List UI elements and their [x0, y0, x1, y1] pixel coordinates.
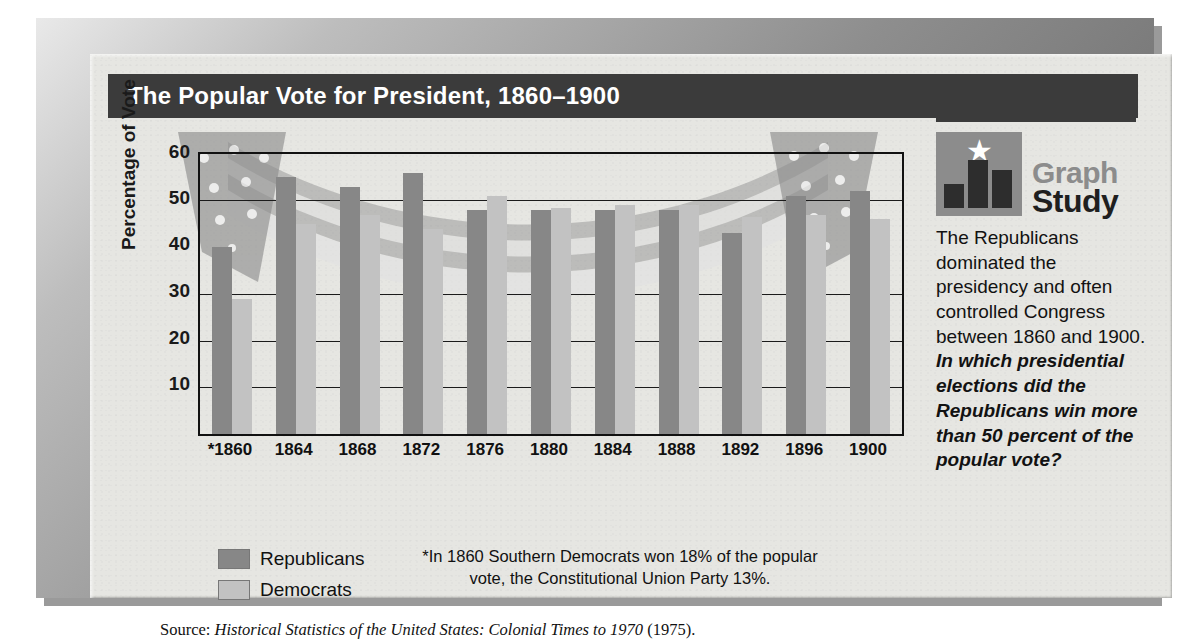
bar-democrats-1880: [551, 208, 571, 434]
graph-study-page: The Popular Vote for President, 1860–190…: [0, 0, 1201, 641]
bar-republicans-1884: [595, 210, 615, 434]
x-tick-label: 1876: [458, 440, 512, 466]
bar-republicans-1900: [850, 191, 870, 434]
page-title: The Popular Vote for President, 1860–190…: [128, 82, 620, 110]
x-tick-label: 1872: [394, 440, 448, 466]
x-tick-label: 1868: [331, 440, 385, 466]
bar-democrats-1864: [296, 224, 316, 434]
bar-democrats-1868: [360, 215, 380, 434]
bar-republicans-1868: [340, 187, 360, 434]
legend-label: Republicans: [260, 548, 365, 570]
y-axis-title: Percentage of Vote: [118, 79, 140, 250]
sidebar-paragraph: The Republicans dominated the presidency…: [936, 226, 1148, 473]
y-axis-ticks: 60 50 40 30 20 10: [146, 132, 190, 532]
bar-republicans-1872: [403, 173, 423, 434]
logo-bar-1: [944, 184, 964, 208]
source-label: Source:: [160, 620, 210, 639]
legend-swatch-republicans: [218, 549, 250, 569]
x-tick-label: 1892: [713, 440, 767, 466]
graph-study-header: ★ Graph Study: [936, 132, 1148, 216]
bar-republicans-1880: [531, 210, 551, 434]
bar-democrats-1876: [487, 196, 507, 434]
y-tick: 30: [156, 281, 190, 300]
x-tick-label: 1888: [650, 440, 704, 466]
graph-study-wordmark: Graph Study: [1032, 159, 1118, 216]
legend-item-democrats: Democrats: [218, 579, 438, 601]
x-tick-label: *1860: [203, 440, 257, 466]
bar-group: [652, 154, 706, 434]
bar-group: [588, 154, 642, 434]
bar-group: [333, 154, 387, 434]
bar-group: [524, 154, 578, 434]
bar-group: [843, 154, 897, 434]
sidebar-statement: The Republicans dominated the presidency…: [936, 227, 1145, 347]
y-tick: 50: [156, 188, 190, 207]
sidebar-question: In which presidential elections did the …: [936, 350, 1138, 470]
y-tick: 60: [156, 142, 190, 161]
bar-groups: [200, 154, 902, 434]
bar-republicans-1864: [276, 177, 296, 434]
chart-footnote: *In 1860 Southern Democrats won 18% of t…: [420, 546, 820, 590]
chart-source: Source: Historical Statistics of the Uni…: [160, 620, 860, 640]
source-title: Historical Statistics of the United Stat…: [215, 620, 644, 639]
y-tick: 40: [156, 234, 190, 253]
logo-bar-3: [992, 170, 1012, 208]
bar-group: [269, 154, 323, 434]
bar-republicans-1896: [786, 196, 806, 434]
chart-card: The Popular Vote for President, 1860–190…: [90, 54, 1172, 598]
bar-republicans-1876: [467, 210, 487, 434]
y-tick: 20: [156, 328, 190, 347]
logo-backdrop: [936, 96, 1136, 122]
bar-republicans-1860: [212, 247, 232, 434]
legend-label: Democrats: [260, 579, 352, 601]
legend: Republicans Democrats: [218, 548, 438, 610]
plot-frame: [198, 152, 904, 436]
legend-swatch-democrats: [218, 580, 250, 600]
bar-democrats-1860: [232, 299, 252, 434]
x-tick-label: 1900: [841, 440, 895, 466]
bar-republicans-1892: [722, 233, 742, 434]
x-tick-label: 1880: [522, 440, 576, 466]
x-axis-labels: *186018641868187218761880188418881892189…: [198, 440, 900, 466]
bar-democrats-1892: [742, 217, 762, 434]
y-tick: 10: [156, 374, 190, 393]
bar-democrats-1900: [870, 219, 890, 434]
x-tick-label: 1896: [777, 440, 831, 466]
graph-study-sidebar: ★ Graph Study The Republicans dominated …: [936, 132, 1148, 473]
bar-republicans-1888: [659, 210, 679, 434]
source-suffix: (1975).: [647, 620, 695, 639]
bar-group: [460, 154, 514, 434]
x-tick-label: 1884: [586, 440, 640, 466]
x-tick-label: 1864: [267, 440, 321, 466]
bar-democrats-1872: [423, 229, 443, 434]
logo-word-study: Study: [1032, 187, 1118, 216]
bar-group: [715, 154, 769, 434]
beveled-frame: The Popular Vote for President, 1860–190…: [36, 18, 1154, 598]
bar-chart-icon: ★: [936, 132, 1022, 216]
logo-bar-2: [968, 160, 988, 208]
legend-item-republicans: Republicans: [218, 548, 438, 570]
bar-group: [779, 154, 833, 434]
bar-democrats-1896: [806, 215, 826, 434]
bar-democrats-1888: [679, 205, 699, 434]
bar-group: [205, 154, 259, 434]
chart-area: Percentage of Vote 60 50 40 30 20 10 *: [102, 132, 912, 532]
bar-democrats-1884: [615, 205, 635, 434]
bar-group: [396, 154, 450, 434]
